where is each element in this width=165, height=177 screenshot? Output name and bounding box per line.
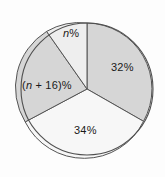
pie-label-n-percent: n%: [63, 27, 79, 39]
pie-label-n-percent-suffix: %: [69, 27, 79, 39]
pie-label-n-plus-16-suffix: + 16)%: [32, 79, 72, 91]
pie-chart-figure: n% (n + 16)% 34% 32%: [0, 0, 165, 177]
pie-label-n-plus-16-percent: (n + 16)%: [22, 79, 72, 91]
pie-label-34-percent: 34%: [74, 124, 97, 136]
pie-label-32-percent: 32%: [111, 61, 134, 73]
